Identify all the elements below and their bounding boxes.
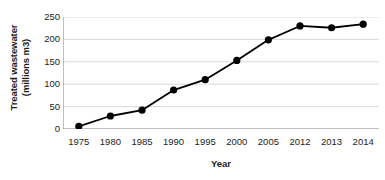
data-point: 1985: 42 <box>138 107 145 114</box>
plot-svg: 1975: 61980: 291985: 421990: 871995: 110… <box>63 17 379 129</box>
data-point: 2013: 226 <box>328 24 335 31</box>
data-point: 1990: 87 <box>170 86 177 93</box>
y-axis-tick-label: 150 <box>30 57 60 67</box>
y-axis-tick-labels: 050100150200250 <box>30 12 60 134</box>
data-point: 2012: 230 <box>296 22 303 29</box>
x-axis-tick-label: 1990 <box>163 136 184 148</box>
data-point: 2000: 153 <box>233 57 240 64</box>
x-axis-tick-label: 2012 <box>289 136 310 148</box>
x-axis-tick-label: 2005 <box>258 136 279 148</box>
y-axis-tick-label: 200 <box>30 34 60 44</box>
x-axis-tick-label: 2000 <box>226 136 247 148</box>
data-point: 1995: 110 <box>202 76 209 83</box>
grid-lines <box>63 17 379 129</box>
data-markers: 1975: 61980: 291985: 421990: 871995: 110… <box>75 21 367 129</box>
data-point: 2005: 199 <box>265 36 272 43</box>
y-axis-tick-label: 50 <box>30 102 60 112</box>
data-point: 1980: 29 <box>107 112 114 119</box>
y-axis-tick-label: 250 <box>30 12 60 22</box>
x-axis-tick-label: 1985 <box>131 136 152 148</box>
data-point: 1975: 6 <box>75 123 82 129</box>
data-point: 2014: 234 <box>360 21 367 28</box>
x-axis-tick-label: 1995 <box>195 136 216 148</box>
x-axis-tick-labels: 1975198019851990199520002005201220132014 <box>63 136 379 152</box>
x-axis-tick-label: 2014 <box>353 136 374 148</box>
x-axis-title: Year <box>63 158 379 169</box>
x-axis-tick-label: 2013 <box>321 136 342 148</box>
line-chart: Treated wastewater (millions m3) 0501001… <box>0 0 385 180</box>
x-axis-tick-label: 1980 <box>100 136 121 148</box>
y-axis-tick-label: 100 <box>30 79 60 89</box>
x-axis-tick-label: 1975 <box>68 136 89 148</box>
y-axis-title-line1: Treated wastewater <box>9 25 20 111</box>
y-axis-tick-label: 0 <box>30 124 60 134</box>
plot-area: 1975: 61980: 291985: 421990: 871995: 110… <box>63 17 379 129</box>
